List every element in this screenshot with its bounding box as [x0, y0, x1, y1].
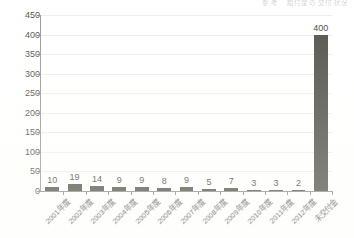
- x-axis-tick-mark: [63, 191, 85, 195]
- x-axis-tick-mark: [86, 191, 108, 195]
- bar-value-label: 9: [139, 176, 144, 185]
- bar-value-label: 5: [206, 178, 211, 187]
- y-axis-tick-label: 300: [4, 69, 40, 78]
- x-axis-tick-mark: [287, 191, 309, 195]
- bar: [68, 184, 82, 191]
- bar-value-label: 9: [184, 176, 189, 185]
- y-axis-tick-label: 200: [4, 108, 40, 117]
- x-axis-label-cell: 2011年度: [265, 196, 287, 238]
- x-axis-label-cell: 未交付金: [310, 196, 332, 238]
- y-axis-tick-label: 100: [4, 147, 40, 156]
- bar-series: 101914998957332400: [41, 15, 332, 191]
- x-axis-tick-mark: [131, 191, 153, 195]
- chart-page: 参 考 給付金 の 交付 状況 450400350300250200150100…: [0, 0, 354, 238]
- bar-chart: 450400350300250200150100500 101914998957…: [0, 10, 354, 238]
- bar: [314, 35, 328, 191]
- x-axis-tick-mark: [153, 191, 175, 195]
- x-axis-label-cell: 2008年度: [198, 196, 220, 238]
- x-axis-tick-label: 未交付金: [314, 198, 339, 223]
- x-axis-tick-mark: [41, 191, 63, 195]
- x-axis-label-cell: 2006年度: [153, 196, 175, 238]
- bar-item: 8: [153, 15, 175, 191]
- bar-item: 2: [287, 15, 309, 191]
- y-axis-tick-label: 450: [4, 11, 40, 20]
- bar-item: 19: [63, 15, 85, 191]
- bar-value-label: 8: [162, 177, 167, 186]
- x-axis-label-cell: 2002年度: [63, 196, 85, 238]
- x-axis-labels: 2001年度2002年度2003年度2004年度2005年度2006年度2007…: [41, 196, 332, 238]
- bar-value-label: 3: [251, 179, 256, 188]
- x-axis-tick-mark: [175, 191, 197, 195]
- x-axis-label-cell: 2001年度: [41, 196, 63, 238]
- y-axis-tick-label: 150: [4, 128, 40, 137]
- bar-value-label: 400: [313, 24, 328, 33]
- y-axis-tick-label: 350: [4, 50, 40, 59]
- x-axis-tick-mark: [310, 191, 332, 195]
- x-axis-label-cell: 2012年度: [287, 196, 309, 238]
- x-axis-label-cell: 2005年度: [131, 196, 153, 238]
- bar-item: 5: [198, 15, 220, 191]
- bar-value-label: 3: [274, 179, 279, 188]
- x-axis-label-cell: 2009年度: [220, 196, 242, 238]
- bar-value-label: 9: [117, 176, 122, 185]
- x-axis-tick-mark: [265, 191, 287, 195]
- x-axis-tick-mark: [108, 191, 130, 195]
- bar-value-label: 2: [296, 179, 301, 188]
- bar-item: 9: [175, 15, 197, 191]
- x-axis-label-cell: 2010年度: [243, 196, 265, 238]
- y-axis-tick-label: 400: [4, 30, 40, 39]
- bar-item: 10: [41, 15, 63, 191]
- bar-item: 400: [310, 15, 332, 191]
- bar-item: 3: [265, 15, 287, 191]
- bar-item: 7: [220, 15, 242, 191]
- x-axis-tick-mark: [198, 191, 220, 195]
- bar-value-label: 7: [229, 177, 234, 186]
- bar-value-label: 10: [47, 176, 57, 185]
- bar-item: 14: [86, 15, 108, 191]
- x-axis-label-cell: 2007年度: [175, 196, 197, 238]
- bar-item: 3: [243, 15, 265, 191]
- x-axis-tick-mark: [220, 191, 242, 195]
- y-axis-tick-label: 50: [4, 167, 40, 176]
- x-axis-label-cell: 2003年度: [86, 196, 108, 238]
- bar-value-label: 14: [92, 175, 102, 184]
- header-faint-text-2: 給付金 の 交付 状況: [287, 0, 348, 7]
- bar-item: 9: [108, 15, 130, 191]
- bar-value-label: 19: [70, 173, 80, 182]
- y-axis-tick-label: 0: [4, 187, 40, 196]
- y-axis-labels: 450400350300250200150100500: [0, 15, 40, 191]
- bar-item: 9: [131, 15, 153, 191]
- header-faint-text: 参 考 給付金 の 交付 状況: [262, 0, 348, 7]
- y-axis-tick-label: 250: [4, 89, 40, 98]
- x-axis-tick-mark: [243, 191, 265, 195]
- x-axis-ticks: [41, 191, 332, 195]
- x-axis-label-cell: 2004年度: [108, 196, 130, 238]
- header-faint-text-1: 参 考: [262, 0, 278, 7]
